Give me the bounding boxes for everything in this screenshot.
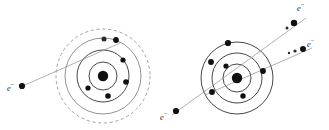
ejected-electron-label: e− [307, 40, 314, 49]
left-bound-electron-2 [123, 79, 129, 85]
scattered-electron-dot [291, 20, 297, 26]
left-bound-electron-5 [113, 37, 119, 43]
scattered-electron-charge: − [301, 1, 305, 8]
ejected-electron-trail-dot-2 [288, 52, 290, 54]
ejected-electron-trail-dot-1 [293, 49, 296, 52]
incident-electron-charge: − [11, 81, 15, 88]
incident-electron-dot [19, 83, 25, 89]
right-bound-electron-1 [225, 40, 231, 46]
left-bound-electron-1 [120, 57, 125, 62]
ejected-electron-charge: − [311, 37, 315, 44]
figure-root: e− e− e− e− [0, 0, 329, 130]
left-atom-nucleus [98, 71, 108, 81]
scattered-electron-trajectory [172, 18, 306, 115]
incoming-electron-charge-right: − [164, 110, 168, 117]
right-atom-nucleus [232, 73, 242, 83]
scattered-electron-trail-dot [286, 27, 289, 30]
right-bound-electron-4 [209, 89, 215, 95]
incident-electron-label: e− [7, 84, 14, 93]
right-bound-electron-2 [260, 68, 266, 74]
ejected-electron-trajectory [205, 48, 312, 95]
ejected-electron-dot [300, 46, 306, 52]
left-bound-electron-4 [105, 93, 111, 99]
left-bound-electron-6 [102, 37, 107, 42]
scattered-electron-label: e− [297, 4, 304, 13]
incoming-electron-dot-right-panel [173, 108, 179, 114]
incoming-electron-label-right-panel: e− [160, 113, 167, 122]
panel-after [172, 18, 312, 115]
right-bound-electron-6 [223, 63, 228, 68]
left-bound-electron-3 [85, 85, 90, 90]
right-bound-electron-3 [208, 59, 214, 65]
right-bound-electron-5 [240, 93, 245, 98]
panel-before [19, 29, 150, 123]
